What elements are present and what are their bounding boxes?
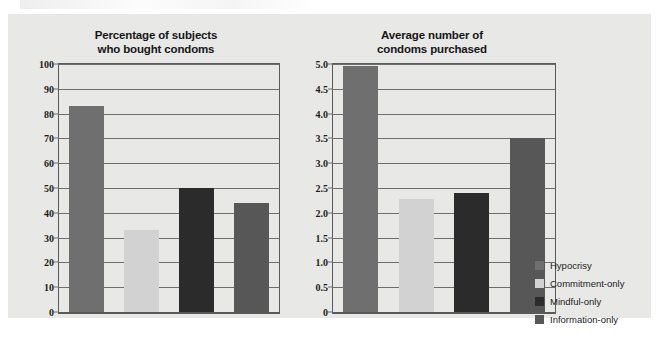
y-axis-tick-label: 40 — [44, 207, 54, 218]
y-axis-tick-label: 80 — [44, 108, 54, 119]
legend-item-hypocrisy: Hypocrisy — [535, 257, 655, 273]
y-axis-tick-label: 3.0 — [316, 158, 329, 169]
scan-artifact — [20, 0, 320, 9]
y-axis-tick — [54, 312, 59, 313]
y-axis-tick — [328, 212, 333, 213]
legend-item-label: Commitment-only — [550, 278, 624, 289]
gridline — [59, 89, 279, 90]
legend-item-label: Information-only — [550, 314, 618, 325]
chart-title-average: Average number of condoms purchased — [288, 28, 576, 56]
y-axis-tick-label: 2.0 — [316, 207, 329, 218]
y-axis-tick — [54, 163, 59, 164]
y-axis-tick — [54, 188, 59, 189]
chart-title-percentage: Percentage of subjects who bought condom… — [12, 28, 300, 56]
legend-swatch-icon — [535, 279, 544, 288]
chart-card: Percentage of subjects who bought condom… — [8, 14, 651, 318]
gridline — [59, 64, 279, 65]
bar-mindful-only — [179, 188, 214, 312]
y-axis-tick — [328, 163, 333, 164]
y-axis-tick-label: 5.0 — [316, 59, 329, 70]
y-axis-tick-label: 4.0 — [316, 108, 329, 119]
legend-item-information-only: Information-only — [535, 311, 655, 327]
y-axis-tick — [328, 287, 333, 288]
y-axis-tick-label: 50 — [44, 183, 54, 194]
legend: HypocrisyCommitment-onlyMindful-onlyInfo… — [535, 257, 655, 329]
y-axis-tick — [54, 113, 59, 114]
y-axis-tick — [54, 64, 59, 65]
chart-title-line-1: Average number of — [288, 28, 576, 42]
y-axis-tick-label: 90 — [44, 83, 54, 94]
y-axis-tick — [54, 237, 59, 238]
legend-item-mindful-only: Mindful-only — [535, 293, 655, 309]
y-axis-tick — [328, 88, 333, 89]
y-axis-tick — [54, 287, 59, 288]
y-axis-tick-label: 1.5 — [316, 232, 329, 243]
y-axis-tick — [328, 262, 333, 263]
y-axis-tick-label: 100 — [39, 59, 54, 70]
y-axis-tick-label: 30 — [44, 232, 54, 243]
bar-hypocrisy — [343, 66, 378, 312]
bar-commitment-only — [124, 230, 159, 312]
y-axis-tick — [328, 113, 333, 114]
y-axis-tick-label: 1.0 — [316, 257, 329, 268]
legend-item-label: Mindful-only — [550, 296, 601, 307]
y-axis-tick — [54, 88, 59, 89]
legend-swatch-icon — [535, 261, 544, 270]
y-axis-tick — [328, 188, 333, 189]
y-axis-tick-label: 4.5 — [316, 83, 329, 94]
y-axis-tick — [54, 212, 59, 213]
plot-area-average: 00.51.01.52.02.53.03.54.04.55.0 — [332, 63, 556, 314]
legend-swatch-icon — [535, 315, 544, 324]
chart-title-line-2: who bought condoms — [12, 42, 300, 56]
y-axis-tick-label: 0 — [323, 307, 328, 318]
legend-swatch-icon — [535, 297, 544, 306]
bar-information-only — [234, 203, 269, 312]
y-axis-tick — [328, 312, 333, 313]
y-axis-tick-label: 2.5 — [316, 183, 329, 194]
legend-item-commitment-only: Commitment-only — [535, 275, 655, 291]
bar-mindful-only — [454, 193, 489, 312]
gridline — [333, 64, 555, 65]
y-axis-tick-label: 0 — [49, 307, 54, 318]
y-axis-tick-label: 0.5 — [316, 282, 329, 293]
plot-area-percentage: 0102030405060708090100 — [58, 63, 280, 314]
y-axis-tick — [54, 262, 59, 263]
y-axis-tick-label: 20 — [44, 257, 54, 268]
y-axis-tick-label: 3.5 — [316, 133, 329, 144]
bar-commitment-only — [399, 199, 434, 312]
y-axis-tick-label: 60 — [44, 158, 54, 169]
chart-panel-percentage: Percentage of subjects who bought condom… — [12, 14, 300, 318]
y-axis-tick-label: 10 — [44, 282, 54, 293]
legend-item-label: Hypocrisy — [550, 260, 592, 271]
y-axis-tick-label: 70 — [44, 133, 54, 144]
y-axis-tick — [328, 64, 333, 65]
y-axis-tick — [54, 138, 59, 139]
chart-title-line-1: Percentage of subjects — [12, 28, 300, 42]
y-axis-tick — [328, 138, 333, 139]
chart-panel-average: Average number of condoms purchased 00.5… — [288, 14, 576, 318]
figure-canvas: Percentage of subjects who bought condom… — [0, 0, 659, 339]
bar-hypocrisy — [69, 106, 104, 312]
chart-title-line-2: condoms purchased — [288, 42, 576, 56]
y-axis-tick — [328, 237, 333, 238]
